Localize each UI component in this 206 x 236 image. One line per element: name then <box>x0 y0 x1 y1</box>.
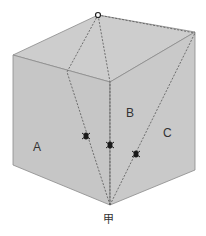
top-vertex-marker <box>96 13 101 18</box>
face-c-label: C <box>163 126 172 140</box>
cube-diagram <box>0 0 206 236</box>
start-vertex-label: 甲 <box>103 210 114 226</box>
face-b-label: B <box>126 106 134 120</box>
face-a-label: A <box>33 140 41 154</box>
